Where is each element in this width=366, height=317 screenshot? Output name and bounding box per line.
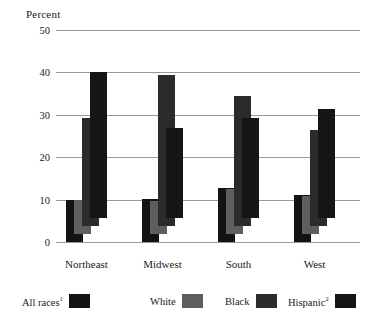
gridline-10 — [56, 200, 360, 201]
legend-item-black: Black — [225, 294, 277, 308]
legend-item-hispanic: Hispanic2 — [288, 294, 356, 308]
legend-label: White — [150, 296, 176, 307]
chart-legend: All races1WhiteBlackHispanic2 — [0, 291, 366, 311]
plot-area: 01020304050 — [30, 30, 360, 242]
gridline-50 — [56, 30, 360, 31]
category-label-northeast: Northeast — [65, 258, 108, 270]
legend-swatch-hispanic — [335, 294, 356, 308]
y-tick-label: 30 — [30, 109, 50, 120]
gridline-30 — [56, 115, 360, 116]
y-axis-title: Percent — [26, 8, 60, 20]
category-label-south: South — [226, 258, 252, 270]
legend-item-white: White — [150, 294, 203, 308]
legend-footnote-marker: 1 — [60, 295, 64, 303]
category-label-west: West — [304, 258, 326, 270]
gridline-0 — [56, 242, 360, 243]
legend-swatch-white — [182, 294, 203, 308]
category-axis: NortheastMidwestSouthWest — [0, 258, 366, 278]
y-tick-label: 0 — [30, 237, 50, 248]
gridline-20 — [56, 157, 360, 158]
category-label-midwest: Midwest — [143, 258, 182, 270]
gridline-40 — [56, 72, 360, 73]
y-tick-label: 40 — [30, 67, 50, 78]
legend-label: All races1 — [22, 295, 63, 308]
y-tick-label: 50 — [30, 25, 50, 36]
y-tick-label: 20 — [30, 152, 50, 163]
legend-swatch-black — [256, 294, 277, 308]
legend-label: Black — [225, 296, 250, 307]
legend-label: Hispanic2 — [288, 295, 329, 308]
legend-swatch-all-races — [69, 294, 90, 308]
bar-chart: Percent 01020304050 NortheastMidwestSout… — [0, 0, 366, 317]
y-tick-label: 10 — [30, 194, 50, 205]
legend-footnote-marker: 2 — [325, 295, 329, 303]
legend-item-all-races: All races1 — [22, 294, 90, 308]
